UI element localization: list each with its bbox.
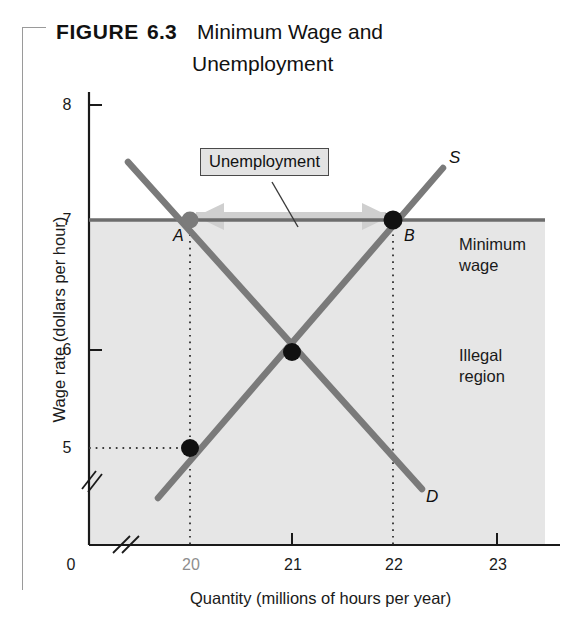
origin-label: 0 <box>60 556 82 574</box>
point-a-label: A <box>173 227 184 245</box>
x-tick-label-23: 23 <box>477 556 519 574</box>
data-point-a <box>182 212 199 229</box>
illegal-region-note: Illegal region <box>459 345 505 387</box>
illegal-region-note-line-2: region <box>459 367 505 385</box>
y-axis-title: Wage rate (dollars per hour) <box>50 155 69 485</box>
minimum-wage-note: Minimum wage <box>459 234 526 276</box>
x-tick-label-21: 21 <box>272 556 314 574</box>
figure-container: FIGURE6.3Minimum Wage and Unemployment <box>0 0 578 622</box>
data-point-supply-at-5 <box>181 439 199 457</box>
minimum-wage-note-line-1: Minimum <box>459 235 526 253</box>
data-point-b <box>384 211 403 230</box>
x-axis-title: Quantity (millions of hours per year) <box>190 589 451 608</box>
illegal-region-note-line-1: Illegal <box>459 346 502 364</box>
minimum-wage-note-line-2: wage <box>459 256 498 274</box>
x-tick-label-22: 22 <box>373 556 415 574</box>
point-b-label: B <box>404 227 415 245</box>
x-tick-label-20: 20 <box>170 556 212 574</box>
demand-curve-label: D <box>426 487 438 507</box>
chart-plot-area <box>0 0 578 622</box>
data-point-equilibrium <box>283 343 301 361</box>
unemployment-callout: Unemployment <box>200 148 329 176</box>
y-tick-label-8: 8 <box>56 96 78 114</box>
supply-curve-label: S <box>449 148 460 168</box>
